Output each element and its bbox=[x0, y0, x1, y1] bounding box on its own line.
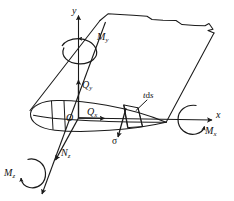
force-Qx-subscript: x bbox=[94, 111, 97, 118]
element-label-tds: tds bbox=[143, 91, 154, 100]
moment-label-Mz: Mz bbox=[4, 168, 15, 180]
tds-leader-line bbox=[136, 100, 147, 111]
torn-edge-top bbox=[100, 14, 214, 33]
engineering-figure: y x My Qy O Qx tds σ Nz Mx Mz bbox=[0, 0, 234, 201]
moment-Mx-subscript: x bbox=[213, 130, 216, 137]
force-Nz-symbol: N bbox=[61, 147, 68, 158]
airfoil-section-outline bbox=[30, 101, 166, 132]
force-Nz-subscript: z bbox=[68, 152, 71, 159]
force-label-Qx: Qx bbox=[87, 107, 97, 119]
moment-Mz-subscript: z bbox=[12, 172, 15, 179]
force-Qy-subscript: y bbox=[89, 84, 92, 91]
force-label-Nz: Nz bbox=[61, 148, 70, 160]
stress-label-sigma: σ bbox=[112, 137, 117, 147]
axis-label-y: y bbox=[72, 6, 76, 16]
spar-web-1 bbox=[52, 101, 54, 129]
figure-drawing-canvas bbox=[0, 0, 234, 201]
force-label-Qy: Qy bbox=[82, 80, 92, 92]
stress-sigma-arrow bbox=[118, 108, 126, 137]
axis-label-x: x bbox=[216, 110, 220, 120]
moment-label-My: My bbox=[97, 32, 109, 44]
moment-label-Mx: Mx bbox=[205, 126, 217, 138]
origin-label: O bbox=[66, 113, 73, 123]
moment-My-subscript: y bbox=[105, 36, 108, 43]
tds-arclength-symbol: s bbox=[150, 90, 154, 100]
moment-Mz-arc bbox=[21, 159, 46, 188]
panel-right-edge bbox=[166, 33, 214, 123]
tds-patch bbox=[124, 105, 143, 128]
